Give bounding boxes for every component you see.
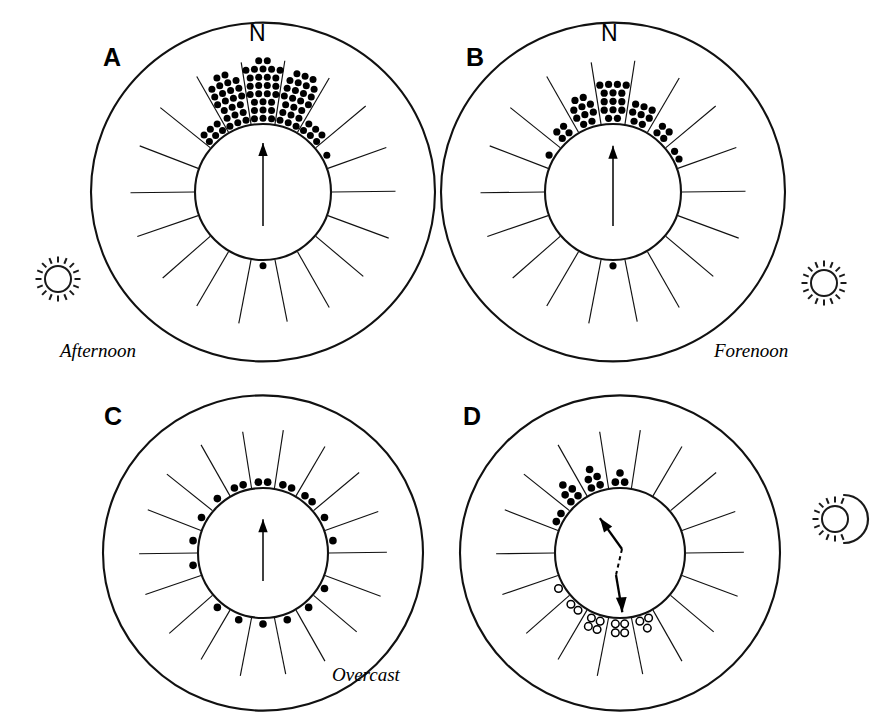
observation-dot-filled xyxy=(247,83,254,90)
sector-divider xyxy=(201,610,230,659)
observation-dot-filled xyxy=(321,514,329,522)
sun-ray xyxy=(49,258,51,264)
sector-divider xyxy=(275,61,285,124)
observation-dot-filled xyxy=(660,135,667,142)
observation-dot-filled xyxy=(609,98,616,105)
observation-dot-filled xyxy=(251,99,258,106)
observation-dot-filled xyxy=(247,74,254,81)
sector-divider xyxy=(625,260,637,322)
observation-dot-open xyxy=(612,629,620,637)
observation-dot-open xyxy=(621,620,629,628)
sun-ray xyxy=(808,295,812,299)
observation-dot-filled xyxy=(553,518,561,526)
observation-dot-filled xyxy=(231,112,238,119)
observation-dot-open xyxy=(644,624,652,632)
sun-ray xyxy=(73,270,79,272)
observation-dot-filled xyxy=(214,495,222,503)
observation-dot-filled xyxy=(189,537,197,545)
sector-divider xyxy=(666,236,713,276)
observation-dot-filled xyxy=(285,119,292,126)
observation-dot-filled xyxy=(292,87,299,94)
sector-spokes xyxy=(481,61,746,324)
inner-circle xyxy=(555,488,685,618)
observation-dot-filled xyxy=(303,82,310,89)
observation-dot-filled xyxy=(208,86,215,93)
sector-divider xyxy=(682,191,745,192)
sector-divider xyxy=(201,445,230,496)
observation-dot-filled xyxy=(605,81,612,88)
observation-dot-filled xyxy=(587,101,594,108)
observation-dot-filled xyxy=(189,562,197,570)
panel-a-diagram xyxy=(0,0,884,728)
observation-dot-filled xyxy=(629,109,636,116)
sector-divider xyxy=(589,260,601,323)
sector-divider xyxy=(131,192,194,193)
condition-label-c: Overcast xyxy=(332,665,400,684)
panel-letter-d: D xyxy=(463,404,481,429)
observation-dot-filled xyxy=(216,82,223,89)
sun-ray xyxy=(42,263,46,267)
sector-divider xyxy=(241,62,251,124)
observation-dot-filled xyxy=(588,484,596,492)
observation-dot-filled xyxy=(302,73,309,80)
observation-dot-filled xyxy=(605,115,612,122)
observation-dot-filled xyxy=(545,152,552,159)
observation-dot-filled xyxy=(614,115,621,122)
inner-circle xyxy=(198,488,328,618)
observation-dot-filled xyxy=(659,123,666,130)
observation-dot-filled xyxy=(281,92,288,99)
observation-dot-filled xyxy=(580,121,587,128)
observation-dot-filled xyxy=(305,121,312,128)
observation-dot-filled xyxy=(632,101,639,108)
observation-dot-filled xyxy=(623,82,630,89)
observation-dot-filled xyxy=(221,71,228,78)
sun-ray xyxy=(830,298,832,304)
observation-dot-open xyxy=(555,585,563,593)
observation-dot-filled xyxy=(286,77,293,84)
sun-ray xyxy=(70,291,74,295)
panel-c-diagram xyxy=(0,0,884,728)
observation-dot-filled xyxy=(224,79,231,86)
observation-dot-filled xyxy=(219,127,226,134)
sector-divider xyxy=(274,430,283,488)
sector-divider xyxy=(678,147,736,168)
observation-dot-filled xyxy=(260,262,267,269)
observation-dot-filled xyxy=(234,119,241,126)
sector-divider xyxy=(243,432,252,488)
mean-vector-arrow xyxy=(258,143,267,226)
observation-dot-filled xyxy=(284,85,291,92)
observation-dot-filled xyxy=(588,118,595,125)
sector-divider xyxy=(671,595,714,631)
observation-dot-filled xyxy=(282,101,289,108)
observation-dot-filled xyxy=(260,98,267,105)
observation-dot-filled xyxy=(609,89,616,96)
observation-dot-filled xyxy=(601,90,608,97)
panel-letter-c: C xyxy=(104,404,122,429)
observation-dot-open xyxy=(621,629,629,637)
sector-divider xyxy=(197,252,229,306)
observation-dot-filled xyxy=(229,104,236,111)
sector-divider xyxy=(316,236,363,276)
sun-ray xyxy=(819,531,823,535)
sector-divider xyxy=(239,260,251,323)
observation-dot-open xyxy=(612,620,620,628)
sector-divider xyxy=(314,595,357,631)
observation-dots xyxy=(201,57,331,269)
sun-ray xyxy=(836,295,840,299)
observation-dot-open xyxy=(645,614,653,622)
panel-letter-a: A xyxy=(103,45,121,70)
observation-dot-filled xyxy=(272,83,279,90)
observation-dot-filled xyxy=(251,107,258,114)
inner-circle xyxy=(545,124,681,260)
observation-dot-filled xyxy=(277,67,284,74)
observation-dot-filled xyxy=(630,118,637,125)
sector-divider xyxy=(140,146,198,169)
sun-rays xyxy=(36,257,81,302)
sun-ray xyxy=(70,263,74,267)
observation-dot-filled xyxy=(211,93,218,100)
observation-dot-filled xyxy=(618,107,625,114)
sun-ray xyxy=(836,267,840,271)
sector-divider xyxy=(631,618,642,674)
sector-divider xyxy=(648,78,680,132)
condition-label-b: Forenoon xyxy=(714,341,788,360)
